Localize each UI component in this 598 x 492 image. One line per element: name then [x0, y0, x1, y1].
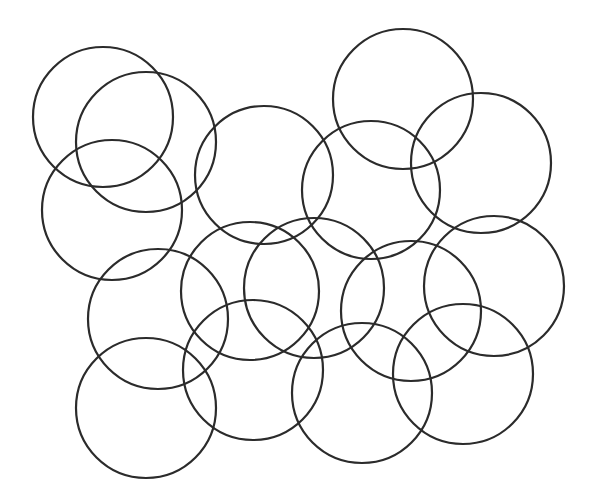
circle-outline-6: [302, 121, 440, 259]
circle-outline-11: [341, 241, 481, 381]
overlapping-circles-diagram: [0, 0, 598, 492]
circle-outline-15: [292, 323, 432, 463]
circle-outline-12: [424, 216, 564, 356]
circle-outline-1: [33, 47, 173, 187]
circle-outline-16: [393, 304, 533, 444]
circle-group: [33, 29, 564, 478]
circle-outline-8: [88, 249, 228, 389]
